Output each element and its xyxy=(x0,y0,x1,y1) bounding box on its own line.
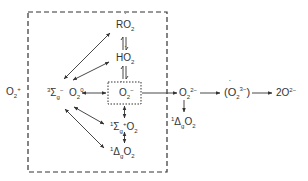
oxide-label: 2O2− xyxy=(276,88,296,98)
o2-cation-label: O2+ xyxy=(6,87,21,97)
arrow-triplet-singlet-delta xyxy=(65,109,104,148)
singlet-sigma-label: 1Σg+O2 xyxy=(110,122,138,132)
equilibrium-ho2-superoxide xyxy=(121,66,128,79)
peroxide-label: O22− xyxy=(179,88,197,98)
ro2-label: RO2 xyxy=(116,20,134,30)
singlet-delta-out-label: 1ΔgO2 xyxy=(171,117,196,127)
superoxide-label: O2− xyxy=(119,88,134,98)
singlet-delta-label: 1ΔgO2 xyxy=(110,147,135,157)
arrow-triplet-singlet-sigma xyxy=(74,107,104,124)
triplet-label: 3Σg− xyxy=(47,88,63,98)
trioxide-radical-label: (O23−) xyxy=(224,87,250,98)
arrow-triplet-ro2 xyxy=(64,33,110,79)
o2-ground-label: O20 xyxy=(69,88,83,98)
ho2-label: HO2 xyxy=(116,53,134,63)
